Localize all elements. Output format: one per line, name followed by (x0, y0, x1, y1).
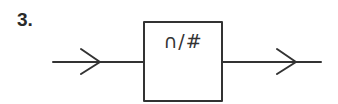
block-operator-text: ∩/# (143, 32, 223, 51)
block-diagram (0, 0, 338, 104)
